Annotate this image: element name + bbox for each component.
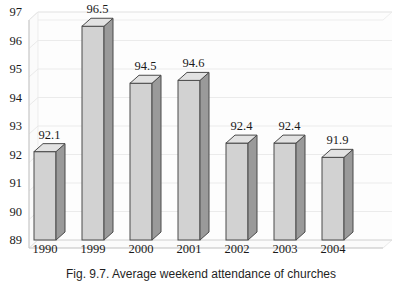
bar-side-face [152, 75, 161, 240]
y-tick-label: 96 [0, 35, 22, 48]
bar-value-label: 92.1 [27, 129, 73, 142]
bar-side-face [56, 144, 65, 240]
bar-side-face [344, 149, 353, 240]
y-tick-label: 92 [0, 149, 22, 162]
bar-side-face [296, 135, 305, 240]
bar-value-label: 94.6 [171, 57, 217, 70]
x-tick-label: 2002 [214, 243, 260, 256]
bar-value-label: 92.4 [219, 120, 265, 133]
bar-value-label: 94.5 [123, 60, 169, 73]
x-tick-label: 1999 [70, 243, 116, 256]
bar-front-face [274, 143, 296, 240]
bar-front-face [34, 152, 56, 240]
x-tick-label: 1990 [22, 243, 68, 256]
y-tick-label: 97 [0, 6, 22, 19]
bar-front-face [178, 80, 200, 240]
bar-value-label: 91.9 [315, 134, 361, 147]
bar-value-label: 96.5 [75, 3, 121, 16]
bar-value-label: 92.4 [267, 120, 313, 133]
y-tick-label: 90 [0, 206, 22, 219]
x-tick-label: 2003 [262, 243, 308, 256]
bar-side-face [248, 135, 257, 240]
y-tick-label: 94 [0, 92, 22, 105]
figure-caption: Fig. 9.7. Average weekend attendance of … [0, 268, 402, 281]
figure-container: 97 96 95 94 93 92 91 90 89 1990 1999 200… [0, 0, 402, 288]
y-tick-label: 91 [0, 177, 22, 190]
bar-front-face [130, 83, 152, 240]
bar-front-face [322, 157, 344, 240]
bar-front-face [82, 26, 104, 240]
y-tick-label: 95 [0, 63, 22, 76]
y-tick-label: 89 [0, 234, 22, 247]
x-tick-label: 2001 [166, 243, 212, 256]
x-tick-label: 2004 [310, 243, 356, 256]
bar-front-face [226, 143, 248, 240]
y-tick-label: 93 [0, 120, 22, 133]
bar-side-face [200, 72, 209, 240]
x-tick-label: 2000 [118, 243, 164, 256]
bar-side-face [104, 18, 113, 240]
chart-plot-area: 97 96 95 94 93 92 91 90 89 1990 1999 200… [0, 0, 402, 262]
